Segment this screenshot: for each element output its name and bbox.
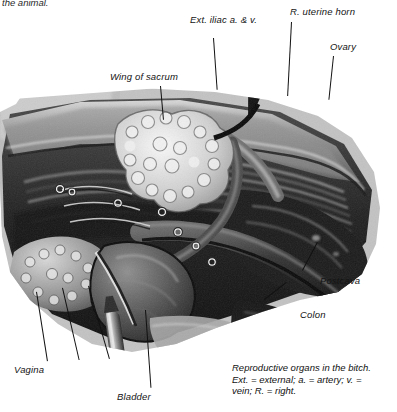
label-r-uterine-horn: R. uterine horn bbox=[290, 6, 355, 17]
label-colon: Colon bbox=[300, 309, 326, 320]
figure-caption: Reproductive organs in the bitch. Ext. =… bbox=[232, 362, 392, 397]
cut-off-body-text: the animal. bbox=[2, 0, 48, 8]
figure-plate: the animal. bbox=[0, 0, 397, 412]
caption-line-3: vein; R. = right. bbox=[232, 385, 392, 397]
label-bladder: Bladder bbox=[117, 391, 151, 402]
label-ext-iliac-a-and-v: Ext. iliac a. & v. bbox=[190, 14, 257, 25]
label-wing-of-sacrum: Wing of sacrum bbox=[110, 71, 178, 82]
leader-line-uterine-horn bbox=[287, 22, 292, 96]
anatomical-illustration-artwork bbox=[0, 86, 397, 368]
anatomical-illustration bbox=[0, 86, 397, 368]
label-ovary: Ovary bbox=[330, 41, 356, 52]
caption-line-2: Ext. = external; a. = artery; v. = bbox=[232, 374, 392, 386]
leader-line-ext-iliac bbox=[213, 38, 218, 90]
caption-line-1: Reproductive organs in the bitch. bbox=[232, 362, 392, 374]
label-postcava: Postcava bbox=[320, 275, 360, 286]
label-vagina: Vagina bbox=[14, 364, 44, 375]
